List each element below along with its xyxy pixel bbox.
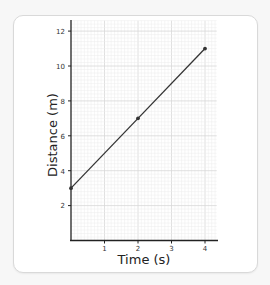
- x-tick-label: 4: [203, 245, 208, 253]
- ticks: [68, 31, 205, 243]
- y-tick-label: 12: [56, 28, 65, 36]
- y-tick-label: 4: [61, 168, 66, 176]
- y-tick-label: 8: [61, 98, 65, 106]
- data-point-marker: [136, 116, 140, 120]
- distance-time-chart: 1 2 3 4 2 4 6 8 10 12 Time (s) Distance …: [0, 0, 270, 285]
- grid: [71, 21, 217, 241]
- x-tick-label: 1: [102, 245, 106, 253]
- y-tick-label: 2: [61, 202, 65, 210]
- y-axis-title: Distance (m): [45, 93, 60, 177]
- y-tick-label: 6: [61, 133, 66, 141]
- data-point-marker: [69, 186, 73, 190]
- y-tick-label: 10: [56, 63, 65, 71]
- data-point-marker: [203, 47, 207, 51]
- axes: [70, 20, 218, 241]
- x-axis-title: Time (s): [117, 252, 171, 267]
